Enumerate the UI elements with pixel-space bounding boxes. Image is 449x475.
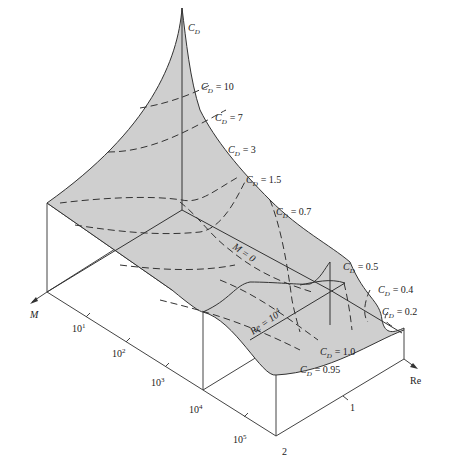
re-axis-base-line: [47, 292, 203, 390]
re-tick-2: [126, 338, 130, 342]
re-tick-1: [86, 313, 90, 317]
mach-axis-arrowhead-icon: [30, 297, 38, 304]
cd-axis-label: CD: [188, 22, 200, 36]
re-axis-label: Re: [410, 375, 422, 386]
mach-axis-label: M: [29, 309, 39, 320]
re-tick-5: [244, 413, 248, 417]
diagram-canvas: CD CD= 10 CD= 7 CD= 3 CD= 1.5 CD= 0.7 CD…: [0, 0, 449, 475]
mach-tick-label-2: 2: [282, 446, 287, 457]
cd-surface: [47, 8, 404, 375]
contour-label-cd-0.95: CD= 0.95: [300, 364, 340, 378]
contour-label-cd-0.4: CD= 0.4: [378, 284, 413, 298]
mach-tick-1: [343, 396, 348, 400]
re-tick-label-1e2: 102: [112, 347, 126, 359]
contour-label-cd-3: CD= 3: [228, 144, 256, 158]
drag-coefficient-surface-diagram: CD CD= 10 CD= 7 CD= 3 CD= 1.5 CD= 0.7 CD…: [0, 0, 449, 475]
re-tick-label-1e5: 105: [233, 433, 247, 445]
contour-label-cd-10: CD= 10: [201, 81, 234, 95]
re-tick-label-1e1: 101: [72, 322, 86, 334]
re-tick-label-1e3: 103: [151, 376, 165, 388]
re-tick-label-1e4: 104: [189, 403, 203, 415]
mach-tick-label-1: 1: [350, 402, 355, 413]
re-axis-extension-line: [203, 390, 276, 436]
contour-label-cd-7: CD= 7: [215, 112, 243, 126]
contour-label-cd-0.2: CD= 0.2: [382, 306, 417, 320]
re-tick-3: [165, 363, 169, 367]
